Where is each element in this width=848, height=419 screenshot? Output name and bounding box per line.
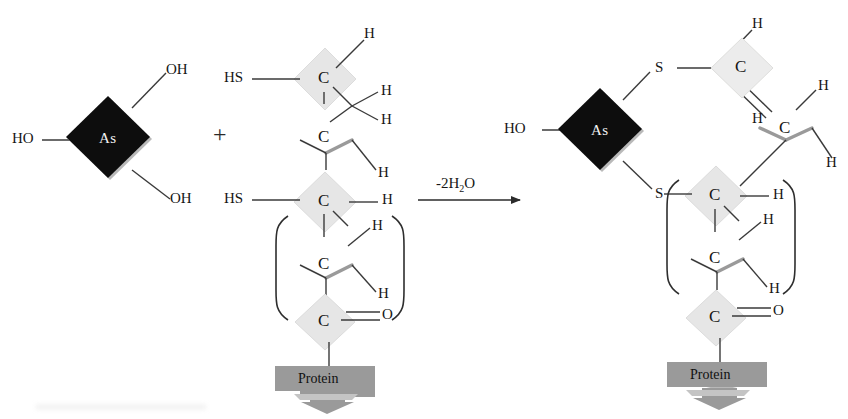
- hydrogen-label-L6: H: [372, 218, 383, 233]
- hydrogen-label-R7: H: [769, 281, 780, 296]
- protein-label-left: Protein: [298, 371, 338, 387]
- carbon-label-R2: C: [779, 119, 790, 136]
- carbon4-bonds-right: [691, 222, 767, 290]
- sulfur-label-bottom: S: [655, 186, 663, 201]
- hydroxyl-top-label: OH: [166, 62, 188, 77]
- hydroxyl-bottom-label: OH: [170, 191, 192, 206]
- protein-label-right: Protein: [690, 367, 730, 383]
- bracket-left: [276, 216, 404, 320]
- hydrogen-label-L4: H: [378, 165, 389, 180]
- hydroxyl-left-label: HO: [12, 131, 34, 146]
- carbon4-wedge-right: [717, 259, 743, 272]
- hydrogen-label-R3: H: [818, 78, 829, 93]
- reaction-label-head: -2H: [436, 175, 459, 191]
- carbon-label-L5: C: [318, 312, 329, 329]
- reaction-label-tail: O: [464, 175, 475, 191]
- reaction-condition-label: -2H2O: [436, 176, 475, 194]
- bond-layer: [0, 0, 848, 419]
- carbon4-wedge-left: [326, 265, 352, 278]
- carbon2-bonds-right: [740, 90, 832, 186]
- oxygen-label-right: O: [773, 303, 784, 318]
- arsenic-label-left: As: [99, 130, 116, 147]
- reaction-diagram: HO OH OH As + HS C H H H C H HS C H C H …: [0, 0, 848, 419]
- scan-artifact: [36, 404, 206, 410]
- hydrogen-label-R1: H: [752, 16, 763, 31]
- hydrogen-label-L2: H: [381, 83, 392, 98]
- hydrogen-label-L5: H: [382, 192, 393, 207]
- carbon2-bonds-left: [326, 140, 352, 153]
- carbon-label-R5: C: [709, 308, 720, 325]
- carbon-label-L4: C: [318, 255, 329, 272]
- thiol-top-label: HS: [224, 70, 243, 85]
- hydrogen-label-R2: H: [752, 111, 763, 126]
- oxygen-label-left: O: [382, 307, 393, 322]
- carbon4-bonds-left: [300, 228, 376, 296]
- carbon2-bonds-left-thin: [300, 140, 376, 170]
- plus-operator: +: [213, 122, 227, 146]
- carbon-label-R1: C: [735, 58, 746, 75]
- carbon-label-R3: C: [709, 186, 720, 203]
- carbon-label-L1: C: [318, 69, 329, 86]
- carbon-label-L3: C: [318, 192, 329, 209]
- hydrogen-label-R4: H: [826, 155, 837, 170]
- sulfur-label-top: S: [655, 60, 663, 75]
- hydroxyl-right-label: HO: [504, 121, 526, 136]
- carbon-label-L2: C: [318, 128, 329, 145]
- hydrogen-label-L1: H: [364, 26, 375, 41]
- hydrogen-label-L7: H: [378, 286, 389, 301]
- hydrogen-label-L3: H: [381, 112, 392, 127]
- hydrogen-label-R6: H: [763, 212, 774, 227]
- arsenic-label-right: As: [591, 122, 608, 139]
- hydrogen-label-R5: H: [773, 187, 784, 202]
- thiol-bottom-label: HS: [224, 191, 243, 206]
- carbon-label-R4: C: [709, 249, 720, 266]
